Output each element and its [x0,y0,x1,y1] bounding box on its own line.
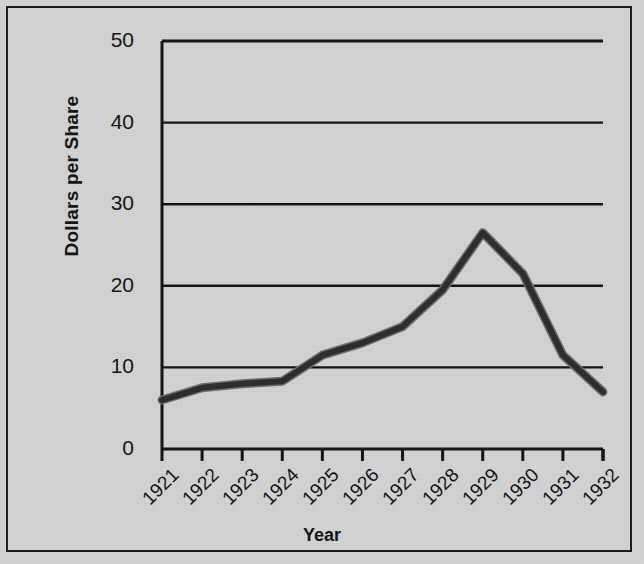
axis-lines [162,41,603,461]
data-series-line [162,233,603,400]
y-tick-label-40: 40 [88,110,134,134]
gridlines [162,41,603,367]
y-tick-label-50: 50 [88,28,134,52]
y-axis-title: Dollars per Share [61,76,83,276]
x-axis-ticks [162,449,603,461]
y-tick-label-30: 30 [88,191,134,215]
x-axis-title: Year [0,525,644,546]
y-tick-label-10: 10 [88,354,134,378]
chart-figure: Dollars per Share 50 40 30 20 10 0 1921 … [0,0,644,564]
data-line-main [162,233,603,400]
data-line-shadow [162,233,603,400]
y-tick-label-0: 0 [88,436,134,460]
y-tick-label-20: 20 [88,273,134,297]
